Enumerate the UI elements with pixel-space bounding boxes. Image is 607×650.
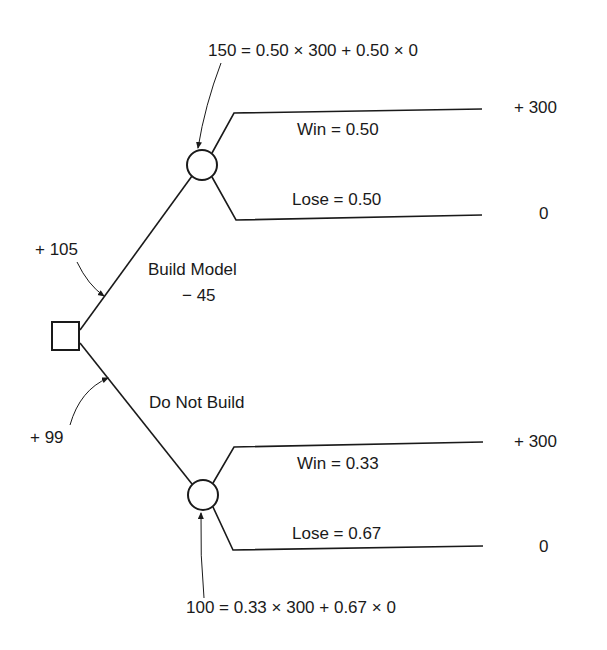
arrow-100-to-lower-node: [201, 513, 204, 598]
do-not-build-ev: + 99: [30, 428, 64, 447]
lower-lose-payoff: 0: [539, 537, 548, 556]
lower-lose-label: Lose = 0.67: [292, 524, 381, 543]
upper-win-label: Win = 0.50: [297, 120, 379, 139]
decision-node-square: [52, 322, 79, 350]
branch-build-model: [80, 176, 192, 330]
upper-ev-equation: 150 = 0.50 × 300 + 0.50 × 0: [208, 41, 418, 60]
upper-lose-payoff: 0: [539, 204, 548, 223]
upper-lose-label: Lose = 0.50: [292, 190, 381, 209]
build-model-cost: − 45: [182, 286, 216, 305]
lower-ev-equation: 100 = 0.33 × 300 + 0.67 × 0: [186, 598, 396, 617]
lower-win-label: Win = 0.33: [297, 454, 379, 473]
arrow-105-to-build-branch: [77, 262, 104, 296]
build-model-label: Build Model: [148, 260, 237, 279]
do-not-build-label: Do Not Build: [149, 393, 244, 412]
diagram-svg: 150 = 0.50 × 300 + 0.50 × 0 Win = 0.50 L…: [0, 0, 607, 650]
branch-do-not-build: [80, 343, 192, 484]
arrow-99-to-do-not-build-branch: [70, 378, 108, 425]
chance-node-lower: [188, 480, 218, 510]
decision-tree-diagram: 150 = 0.50 × 300 + 0.50 × 0 Win = 0.50 L…: [0, 0, 607, 650]
build-model-ev: + 105: [35, 240, 78, 259]
chance-node-upper: [187, 150, 217, 180]
lower-win-payoff: + 300: [514, 432, 557, 451]
upper-win-payoff: + 300: [514, 98, 557, 117]
arrow-150-to-upper-node: [198, 63, 221, 148]
